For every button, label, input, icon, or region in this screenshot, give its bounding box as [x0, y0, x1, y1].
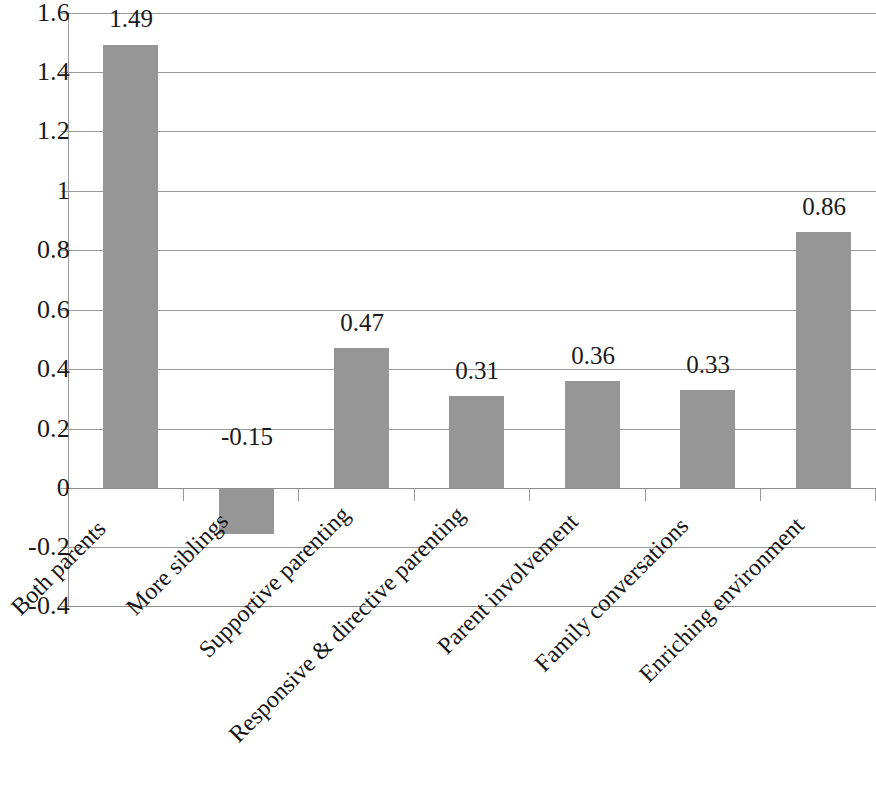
plot-area: 1.6 1.4 1.2 1 0.8 0.6 0.4 0.2 0 -0.2 -0.…: [0, 0, 876, 790]
bar-parent-involvement: [565, 381, 620, 488]
y-axis-tick-label: 1: [57, 178, 70, 204]
y-axis-tick-label: 0.8: [37, 237, 70, 263]
bar-chart: 1.6 1.4 1.2 1 0.8 0.6 0.4 0.2 0 -0.2 -0.…: [0, 0, 876, 790]
bar-supportive-parenting: [334, 348, 389, 488]
y-axis-tick-label: 0.6: [37, 297, 70, 323]
bar-value-label: 0.31: [455, 358, 499, 383]
x-tick-mark: [68, 489, 69, 501]
x-tick-mark: [529, 489, 530, 501]
gridline-0.6: [68, 310, 876, 311]
y-axis-tick-label: 0.4: [37, 356, 70, 382]
bar-value-label: 1.49: [109, 6, 153, 31]
bar-both-parents: [103, 45, 158, 488]
bar-family-conversations: [680, 390, 735, 488]
x-tick-mark: [645, 489, 646, 501]
y-axis-tick-label: 1.4: [37, 59, 70, 85]
x-tick-mark: [414, 489, 415, 501]
y-axis-tick-label: 1.6: [37, 0, 70, 26]
gridline-1.6: [68, 13, 876, 14]
gridline-1.4: [68, 72, 876, 73]
bar-value-label: 0.86: [802, 194, 846, 219]
y-axis-tick-label: 1.2: [37, 118, 70, 144]
y-axis-tick-label: 0.2: [37, 416, 70, 442]
bar-value-label: 0.33: [686, 352, 730, 377]
gridline-1.0: [68, 191, 876, 192]
bar-value-label: -0.15: [221, 424, 273, 449]
gridline-zero: [68, 488, 876, 489]
bar-value-label: 0.36: [571, 343, 615, 368]
bar-enriching-environment: [796, 232, 851, 488]
bar-value-label: 0.47: [340, 310, 384, 335]
x-tick-mark: [298, 489, 299, 501]
x-tick-mark: [760, 489, 761, 501]
x-tick-mark: [183, 489, 184, 501]
gridline-0.8: [68, 250, 876, 251]
bar-responsive-directive-parenting: [449, 396, 504, 488]
x-axis-category-label-responsive-directive-parenting: Responsive & directive parenting: [224, 518, 453, 747]
x-axis-category-label-more-siblings: More siblings: [122, 518, 224, 620]
gridline-1.2: [68, 131, 876, 132]
